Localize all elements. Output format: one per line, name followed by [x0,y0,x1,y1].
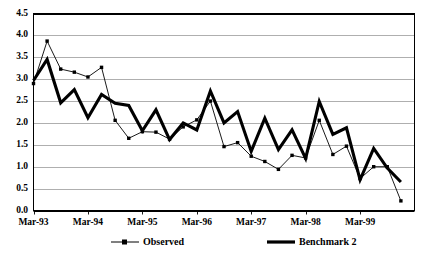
data-point-marker [386,165,389,168]
legend-item-observed: Observed [110,236,184,247]
data-point-marker [181,125,184,128]
data-point-marker [399,199,402,202]
data-point-marker [250,155,253,158]
line-chart: 0.00.51.01.52.02.53.03.54.04.5 Mar-93Mar… [0,0,426,258]
y-axis-tick-label: 0.5 [2,184,28,194]
x-axis-tick-label: Mar-97 [221,218,281,228]
data-point-marker [209,99,212,102]
x-axis-tick-label: Mar-98 [276,218,336,228]
series-markers-observed [32,39,403,202]
data-point-marker [304,156,307,159]
chart-legend: Observed Benchmark 2 [0,236,426,254]
data-point-marker [100,66,103,69]
data-point-marker [236,141,239,144]
y-axis-tick-label: 4.5 [2,9,28,19]
data-point-marker [345,144,348,147]
x-axis-tick-label: Mar-93 [4,218,64,228]
data-point-marker [290,154,293,157]
data-point-marker [73,70,76,73]
legend-swatch-benchmark-2 [266,237,296,247]
legend-label-observed: Observed [143,236,184,247]
y-axis-tick-label: 1.0 [2,162,28,172]
data-point-marker [32,82,35,85]
y-axis-tick-label: 3.5 [2,52,28,62]
data-point-marker [113,119,116,122]
data-point-marker [372,165,375,168]
x-axis-tick-label: Mar-96 [167,218,227,228]
y-axis-tick-label: 2.0 [2,118,28,128]
y-axis-tick-label: 3.0 [2,74,28,84]
legend-swatch-observed [110,237,140,247]
data-point-marker [222,145,225,148]
data-point-marker [263,160,266,163]
data-point-marker [127,137,130,140]
data-point-marker [154,130,157,133]
data-point-marker [277,168,280,171]
x-axis-tick-label: Mar-95 [112,218,172,228]
x-axis-tick-label: Mar-94 [58,218,118,228]
data-point-marker [168,137,171,140]
data-point-marker [45,39,48,42]
legend-label-benchmark-2: Benchmark 2 [299,236,357,247]
legend-item-benchmark-2: Benchmark 2 [266,236,357,247]
data-point-marker [358,177,361,180]
data-point-marker [141,130,144,133]
y-axis-tick-label: 1.5 [2,140,28,150]
y-axis-tick-label: 4.0 [2,30,28,40]
data-point-marker [59,67,62,70]
x-axis-tick-label: Mar-99 [330,218,390,228]
y-axis-tick-label: 2.5 [2,96,28,106]
data-point-marker [86,75,89,78]
data-point-marker [318,119,321,122]
y-axis-tick-label: 0.0 [2,206,28,216]
series-line-observed [34,41,401,201]
data-point-marker [195,118,198,121]
data-point-marker [331,153,334,156]
